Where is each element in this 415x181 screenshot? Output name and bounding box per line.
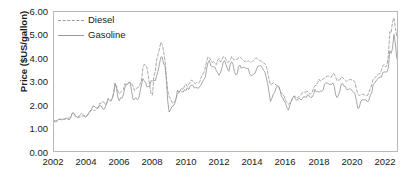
y-tick-label-6: 6.00 [14, 6, 48, 17]
gasoline-diesel-price-chart: Price ($US/gallon) 6.00 5.00 4.00 3.00 2… [0, 0, 415, 181]
y-tick-label-4: 4.00 [14, 53, 48, 64]
y-tick-label-5: 5.00 [14, 29, 48, 40]
legend-label-diesel: Diesel [88, 14, 114, 25]
x-tick-label-2022: 2022 [365, 156, 405, 167]
series-line-gasoline [54, 34, 397, 122]
legend-label-gasoline: Gasoline [88, 29, 126, 40]
legend-swatch-gasoline [58, 35, 84, 36]
y-tick-label-3: 3.00 [14, 76, 48, 87]
y-tick-label-1: 1.00 [14, 123, 48, 134]
legend-swatch-diesel [58, 20, 84, 21]
y-tick-label-2: 2.00 [14, 100, 48, 111]
